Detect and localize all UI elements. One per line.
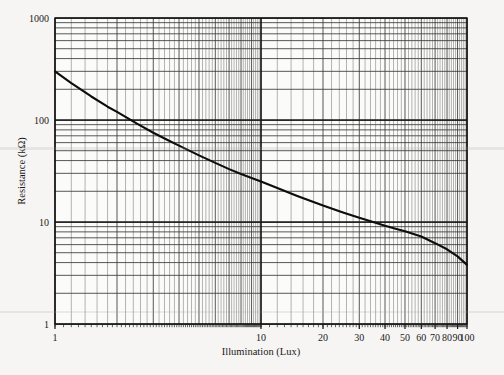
y-axis-title: Resistance (kΩ) — [16, 137, 28, 205]
x-tick-label-80: 80 — [442, 332, 452, 343]
x-tick-label-20: 20 — [318, 332, 328, 343]
x-tick-label-40: 40 — [380, 332, 390, 343]
x-tick-label-1: 1 — [53, 332, 58, 343]
y-tick-label-1000: 1000 — [29, 13, 49, 24]
x-tick-label-70: 70 — [430, 332, 440, 343]
y-tick-label-10: 10 — [39, 217, 49, 228]
x-tick-label-60: 60 — [416, 332, 426, 343]
x-axis-title: Illumination (Lux) — [222, 346, 301, 358]
x-tick-label-10: 10 — [256, 332, 266, 343]
x-tick-label-50: 50 — [400, 332, 410, 343]
chart-figure: 1000 100 10 1 1102030405060708090100 Res… — [0, 0, 504, 375]
resistance-vs-illumination-chart: 1000 100 10 1 1102030405060708090100 Res… — [0, 0, 504, 375]
y-tick-label-100: 100 — [34, 115, 49, 126]
x-tick-label-100: 100 — [460, 332, 475, 343]
x-tick-label-30: 30 — [354, 332, 364, 343]
y-tick-label-1: 1 — [44, 319, 49, 330]
